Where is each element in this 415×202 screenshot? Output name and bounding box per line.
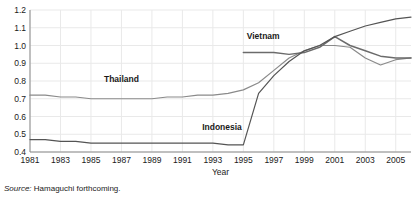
x-axis-tick-label: 1981 (21, 155, 40, 165)
x-axis-tick-label: 1995 (234, 155, 253, 165)
series-label-thailand: Thailand (104, 74, 139, 84)
series-line-thailand (30, 46, 411, 99)
x-axis-tick-label: 2001 (325, 155, 344, 165)
x-axis-tick-label: 1993 (203, 155, 222, 165)
x-axis-tick-label: 1987 (112, 155, 131, 165)
x-axis-tick-label: 2005 (386, 155, 405, 165)
y-axis-tick-label: 0.7 (14, 94, 26, 104)
source-label: Source: (4, 184, 32, 193)
x-axis-tick-label: 1999 (295, 155, 314, 165)
series-label-vietnam: Vietnam (247, 31, 280, 41)
y-axis-tick-label: 0.6 (14, 112, 26, 122)
source-text: Hamaguchi forthcoming. (32, 184, 121, 193)
series-label-indonesia: Indonesia (202, 122, 242, 132)
chart-plot-area: 0.40.50.60.70.80.91.01.11.21981198319851… (0, 0, 415, 202)
source-note: Source: Hamaguchi forthcoming. (4, 184, 121, 193)
x-axis-tick-label: 1989 (142, 155, 161, 165)
y-axis-tick-label: 0.9 (14, 58, 26, 68)
line-chart: 0.40.50.60.70.80.91.01.11.21981198319851… (0, 0, 415, 175)
x-axis-tick-label: 1983 (51, 155, 70, 165)
x-axis-tick-label: 1985 (81, 155, 100, 165)
y-axis-tick-label: 1.1 (14, 23, 26, 33)
y-axis-tick-label: 1.0 (14, 41, 26, 51)
y-axis-tick-label: 0.8 (14, 76, 26, 86)
x-axis-title: Year (212, 167, 229, 175)
y-axis-tick-label: 0.5 (14, 129, 26, 139)
x-axis-tick-label: 2003 (356, 155, 375, 165)
x-axis-tick-label: 1991 (173, 155, 192, 165)
chart-figure: 0.40.50.60.70.80.91.01.11.21981198319851… (0, 0, 415, 202)
y-axis-tick-label: 1.2 (14, 5, 26, 15)
x-axis-tick-label: 1997 (264, 155, 283, 165)
